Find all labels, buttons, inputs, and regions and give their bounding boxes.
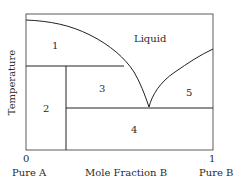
region-1-label: 1 (52, 41, 58, 51)
x-tick-0: 0 (23, 154, 29, 164)
left-liquidus-curve (26, 20, 149, 107)
region-4-label: 4 (131, 125, 137, 135)
region-liquid-label: Liquid (134, 34, 166, 44)
region-2-label: 2 (43, 104, 49, 114)
pure-a-label: Pure A (12, 168, 46, 178)
phase-diagram (0, 0, 237, 185)
right-liquidus-curve (149, 49, 213, 107)
y-axis-label: Temperature (6, 48, 17, 118)
pure-b-label: Pure B (199, 168, 233, 178)
x-axis-label: Mole Fraction B (85, 168, 167, 178)
x-tick-1: 1 (209, 154, 215, 164)
region-5-label: 5 (186, 88, 192, 98)
region-3-label: 3 (99, 84, 105, 94)
plot-frame (26, 14, 213, 150)
